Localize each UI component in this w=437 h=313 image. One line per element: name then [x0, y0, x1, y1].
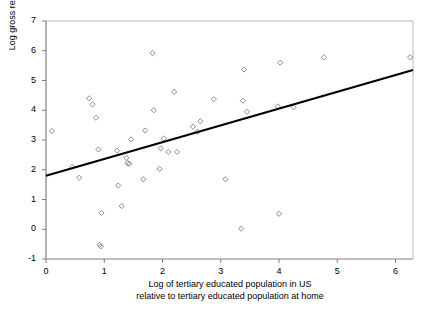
y-tick-label: 3	[16, 134, 36, 144]
x-tick-label: 5	[327, 266, 347, 276]
regression-line	[46, 70, 413, 176]
data-point	[211, 97, 216, 102]
data-point	[407, 55, 412, 60]
data-point	[93, 115, 98, 120]
data-point	[172, 89, 177, 94]
data-point	[239, 226, 244, 231]
y-tick-label: 5	[16, 75, 36, 85]
data-point	[119, 203, 124, 208]
data-point	[128, 137, 133, 142]
x-axis-title-line-1: Log of tertiary educated population in U…	[46, 278, 414, 290]
y-tick-label: 7	[16, 15, 36, 25]
x-axis-title: Log of tertiary educated population in U…	[46, 278, 414, 302]
data-point	[49, 128, 54, 133]
y-tick-label: -1	[16, 253, 36, 263]
data-point	[276, 211, 281, 216]
data-point	[240, 98, 245, 103]
data-point	[150, 51, 155, 56]
data-point	[198, 119, 203, 124]
y-tick-label: 0	[16, 223, 36, 233]
data-point	[99, 210, 104, 215]
data-point	[141, 177, 146, 182]
data-point	[223, 177, 228, 182]
data-point	[142, 128, 147, 133]
data-point	[241, 67, 246, 72]
y-tick-label: 6	[16, 45, 36, 55]
data-point	[90, 102, 95, 107]
x-tick-label: 4	[269, 266, 289, 276]
data-point	[116, 183, 121, 188]
tick-marks	[42, 21, 396, 263]
data-point	[166, 149, 171, 154]
y-tick-label: 2	[16, 164, 36, 174]
data-point	[96, 147, 101, 152]
data-point	[244, 109, 249, 114]
trend-line	[46, 70, 413, 176]
data-point	[278, 60, 283, 65]
data-point	[158, 146, 163, 151]
x-axis-title-line-2: relative to tertiary educated population…	[46, 290, 414, 302]
y-tick-label: 4	[16, 104, 36, 114]
x-tick-label: 6	[386, 266, 406, 276]
data-point	[151, 108, 156, 113]
x-tick-label: 1	[94, 266, 114, 276]
data-point	[114, 148, 119, 153]
x-tick-label: 2	[153, 266, 173, 276]
data-point	[157, 166, 162, 171]
y-tick-label: 1	[16, 194, 36, 204]
x-tick-label: 3	[211, 266, 231, 276]
y-axis-title: Log gross remittances	[7, 0, 17, 66]
data-point	[190, 124, 195, 129]
data-point	[321, 55, 326, 60]
axis-frame	[46, 21, 413, 259]
data-point	[124, 155, 129, 160]
x-tick-label: 0	[36, 266, 56, 276]
data-point	[77, 175, 82, 180]
data-point-group	[49, 51, 412, 250]
data-point	[174, 149, 179, 154]
scatter-chart: -101234567 0123456 Log gross remittances…	[0, 0, 437, 313]
data-point	[87, 96, 92, 101]
